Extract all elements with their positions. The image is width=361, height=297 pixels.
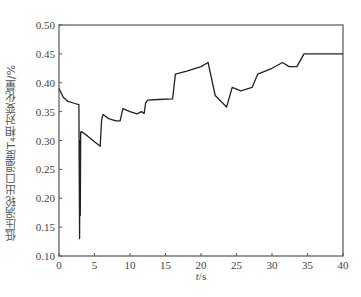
y-tick-label: 0.15 [36,221,56,233]
y-axis-ticks: 0.100.150.200.250.300.350.400.450.50 [36,19,62,262]
line-chart: 0.100.150.200.250.300.350.400.450.50 051… [0,0,361,297]
data-line [59,54,343,239]
x-axis-title: t/s [196,270,206,282]
y-tick-label: 0.25 [36,163,56,175]
y-tick-label: 0.35 [36,106,56,118]
y-axis-title: 低压涡轮出口温度T₄相对变化量/% [4,50,18,255]
x-tick-label: 10 [125,259,137,271]
y-tick-label: 0.45 [36,48,56,60]
x-tick-label: 5 [92,259,98,271]
x-tick-label: 40 [338,259,350,271]
y-tick-label: 0.30 [36,135,56,147]
x-tick-label: 0 [56,259,62,271]
x-tick-label: 35 [302,259,314,271]
y-tick-label: 0.50 [36,19,56,31]
x-tick-label: 30 [267,259,279,271]
x-tick-label: 15 [160,259,172,271]
x-tick-label: 25 [231,259,243,271]
y-tick-label: 0.20 [36,192,56,204]
y-tick-label: 0.40 [36,77,56,89]
y-tick-label: 0.10 [36,250,56,262]
